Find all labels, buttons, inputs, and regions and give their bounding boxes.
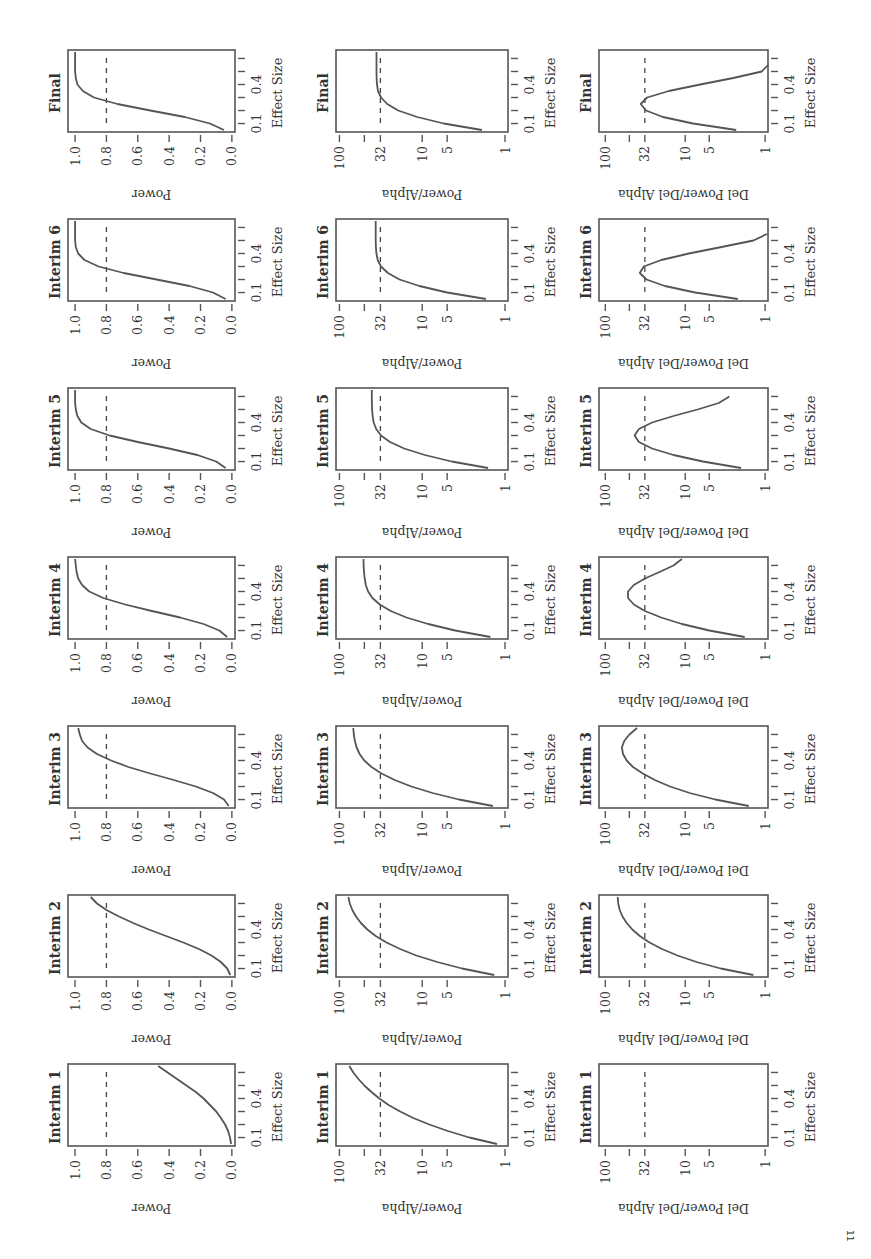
effect-axis-title: Effect Size xyxy=(803,564,818,635)
data-curve xyxy=(641,65,768,130)
value-axis-tick-label: 0.4 xyxy=(162,146,177,166)
value-axis-tick-label: 100 xyxy=(598,822,613,846)
value-axis-tick-label: 10 xyxy=(415,146,430,162)
data-curve xyxy=(635,397,742,469)
value-axis-tick-label: 32 xyxy=(373,1160,388,1176)
value-axis-title: Power xyxy=(132,1032,172,1047)
panel-title: Final xyxy=(315,73,331,113)
value-axis-tick-label: 10 xyxy=(415,653,430,669)
effect-axis-tick-label: 0.4 xyxy=(782,75,797,95)
value-axis-tick-label: 0.8 xyxy=(99,315,114,335)
plot-frame xyxy=(599,557,768,639)
value-axis-tick-label: 1 xyxy=(758,653,773,661)
panel-interim-6-power-alpha: 151032100Power/Alpha0.10.4Effect SizeInt… xyxy=(315,219,558,371)
plot-frame xyxy=(336,726,508,808)
value-axis-tick-label: 10 xyxy=(678,653,693,669)
effect-axis-tick-label: 0.4 xyxy=(522,413,537,433)
value-axis-tick-label: 32 xyxy=(373,653,388,669)
value-axis-tick-label: 100 xyxy=(598,146,613,170)
value-axis-tick-label: 0.2 xyxy=(193,991,208,1011)
panel-title: Final xyxy=(578,73,594,113)
effect-axis-tick-label: 0.4 xyxy=(249,75,264,95)
panel-interim-3-power-alpha: 151032100Power/Alpha0.10.4Effect SizeInt… xyxy=(315,726,558,878)
panel-final-power-alpha: 151032100Power/Alpha0.10.4Effect SizeFin… xyxy=(315,50,558,202)
effect-axis-title: Effect Size xyxy=(803,395,818,466)
value-axis-tick-label: 32 xyxy=(373,146,388,162)
plot-frame xyxy=(599,895,768,977)
value-axis-tick-label: 100 xyxy=(332,484,347,508)
value-axis-tick-label: 0.8 xyxy=(99,484,114,504)
value-axis-tick-label: 5 xyxy=(440,822,455,830)
effect-axis-tick-label: 0.1 xyxy=(249,452,264,472)
value-axis-tick-label: 0.0 xyxy=(224,484,239,504)
value-axis-title: Power/Alpha xyxy=(381,525,462,540)
value-axis-tick-label: 32 xyxy=(637,822,652,838)
page-mark: 11 xyxy=(845,1230,855,1241)
effect-axis-tick-label: 0.4 xyxy=(522,751,537,771)
value-axis-title: Power xyxy=(132,187,172,202)
value-axis-tick-label: 0.0 xyxy=(224,315,239,335)
plot-frame xyxy=(68,726,235,808)
value-axis-tick-label: 0.8 xyxy=(99,822,114,842)
effect-axis-title: Effect Size xyxy=(270,733,285,804)
effect-axis-tick-label: 0.4 xyxy=(782,244,797,264)
effect-axis-tick-label: 0.1 xyxy=(522,114,537,134)
value-axis-tick-label: 0.6 xyxy=(130,484,145,504)
effect-axis-tick-label: 0.4 xyxy=(522,582,537,602)
plot-frame xyxy=(68,50,235,132)
value-axis-tick-label: 1.0 xyxy=(68,822,83,842)
panel-interim-1-power: 0.00.20.40.60.81.0Power0.10.4Effect Size… xyxy=(47,1064,285,1216)
value-axis-tick-label: 10 xyxy=(415,822,430,838)
value-axis-title: Del Power/Del Alpha xyxy=(617,187,749,202)
plot-frame xyxy=(68,219,235,301)
value-axis-tick-label: 32 xyxy=(373,822,388,838)
effect-axis-title: Effect Size xyxy=(543,57,558,128)
data-curve xyxy=(622,728,749,806)
effect-axis-title: Effect Size xyxy=(270,226,285,297)
value-axis-tick-label: 5 xyxy=(702,315,717,323)
panel-final-del-power-del-alpha: 151032100Del Power/Del Alpha0.10.4Effect… xyxy=(578,50,818,202)
value-axis-tick-label: 100 xyxy=(598,315,613,339)
value-axis-tick-label: 0.8 xyxy=(99,1160,114,1180)
effect-axis-tick-label: 0.4 xyxy=(522,244,537,264)
effect-axis-tick-label: 0.4 xyxy=(249,920,264,940)
value-axis-tick-label: 1.0 xyxy=(68,1160,83,1180)
value-axis-tick-label: 5 xyxy=(440,1160,455,1168)
panel-title: Interim 3 xyxy=(47,732,63,806)
value-axis-tick-label: 32 xyxy=(637,991,652,1007)
value-axis-title: Del Power/Del Alpha xyxy=(617,1032,749,1047)
value-axis-tick-label: 10 xyxy=(678,315,693,331)
panel-title: Interim 6 xyxy=(315,225,331,299)
value-axis-tick-label: 100 xyxy=(332,1160,347,1184)
value-axis-title: Power xyxy=(132,356,172,371)
value-axis-tick-label: 10 xyxy=(678,991,693,1007)
effect-axis-tick-label: 0.1 xyxy=(522,959,537,979)
value-axis-tick-label: 0.4 xyxy=(162,315,177,335)
value-axis-tick-label: 5 xyxy=(440,315,455,323)
effect-axis-title: Effect Size xyxy=(543,564,558,635)
plot-frame xyxy=(336,557,508,639)
effect-axis-tick-label: 0.4 xyxy=(782,413,797,433)
value-axis-tick-label: 5 xyxy=(440,991,455,999)
value-axis-tick-label: 1 xyxy=(498,1160,513,1168)
plot-frame xyxy=(336,219,508,301)
data-curve xyxy=(75,52,224,130)
value-axis-tick-label: 100 xyxy=(332,315,347,339)
effect-axis-tick-label: 0.1 xyxy=(522,283,537,303)
data-curve xyxy=(75,221,226,299)
value-axis-title: Del Power/Del Alpha xyxy=(617,863,749,878)
value-axis-tick-label: 0.2 xyxy=(193,146,208,166)
effect-axis-tick-label: 0.1 xyxy=(249,790,264,810)
value-axis-tick-label: 0.4 xyxy=(162,1160,177,1180)
value-axis-tick-label: 5 xyxy=(702,484,717,492)
value-axis-tick-label: 10 xyxy=(678,484,693,500)
data-curve xyxy=(353,728,493,806)
effect-axis-tick-label: 0.4 xyxy=(782,751,797,771)
value-axis-tick-label: 0.6 xyxy=(130,146,145,166)
effect-axis-title: Effect Size xyxy=(803,902,818,973)
value-axis-tick-label: 0.6 xyxy=(130,822,145,842)
panel-interim-6-del-power-del-alpha: 151032100Del Power/Del Alpha0.10.4Effect… xyxy=(578,219,818,371)
value-axis-title: Power/Alpha xyxy=(381,1032,462,1047)
effect-axis-tick-label: 0.4 xyxy=(249,413,264,433)
value-axis-tick-label: 0.8 xyxy=(99,146,114,166)
